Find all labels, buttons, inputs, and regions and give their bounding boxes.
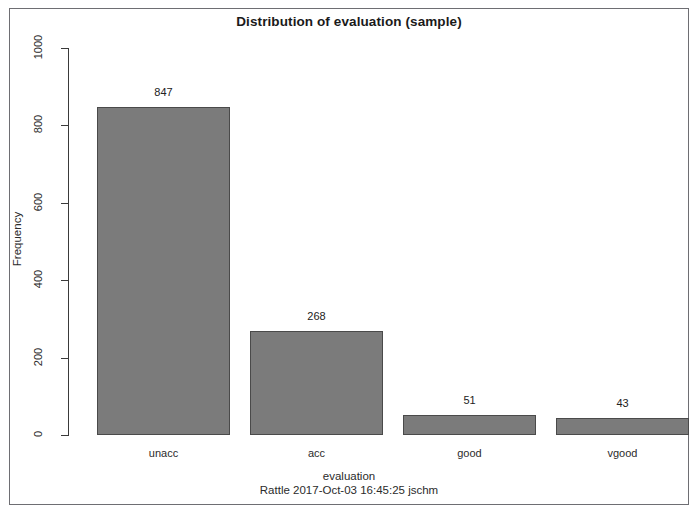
y-axis-tick	[61, 125, 68, 126]
bar	[403, 415, 536, 435]
footer-stamp: Rattle 2017-Oct-03 16:45:25 jschm	[0, 484, 698, 496]
y-axis-title: Frequency	[11, 199, 23, 279]
bar	[250, 331, 383, 435]
y-axis-tick-label-text: 0	[32, 414, 44, 454]
y-axis-tick-label-text: 200	[32, 337, 44, 377]
y-axis-line	[68, 48, 69, 436]
x-axis-category-label: unacc	[97, 447, 230, 459]
x-axis-category-label: good	[403, 447, 536, 459]
y-axis-tick	[61, 358, 68, 359]
chart-figure: Distribution of evaluation (sample) 0200…	[0, 0, 698, 520]
y-axis-tick	[61, 435, 68, 436]
x-axis-category-label: vgood	[556, 447, 689, 459]
y-axis-tick-label: 0	[14, 428, 58, 442]
bar-value-label: 51	[403, 394, 536, 406]
y-axis-tick-label: 200	[14, 351, 58, 365]
plot-area: 02004006008001000 Frequency 847unacc268a…	[0, 0, 698, 520]
y-axis-tick	[61, 203, 68, 204]
y-axis-tick-label: 1000	[14, 41, 58, 55]
bar	[556, 418, 689, 435]
y-axis-tick	[61, 48, 68, 49]
x-axis-title: evaluation	[0, 470, 698, 482]
y-axis-tick-label-text: 600	[32, 182, 44, 222]
y-axis-tick-label: 800	[14, 118, 58, 132]
y-axis-tick-label-text: 1000	[32, 27, 44, 67]
y-axis-tick	[61, 280, 68, 281]
y-axis-tick-label-text: 400	[32, 259, 44, 299]
bar-value-label: 847	[97, 86, 230, 98]
bar	[97, 107, 230, 435]
x-axis-category-label: acc	[250, 447, 383, 459]
y-axis-tick-label-text: 800	[32, 104, 44, 144]
bar-value-label: 268	[250, 310, 383, 322]
bar-value-label: 43	[556, 397, 689, 409]
